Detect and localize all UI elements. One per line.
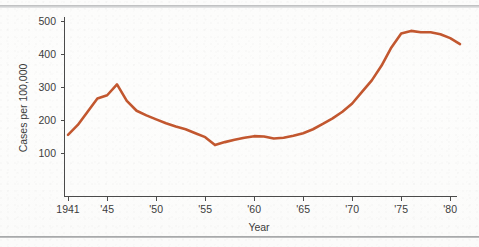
x-axis-ticks [68,197,450,202]
x-tick-label-1955: '55 [198,203,212,215]
x-tick-label-1950: '50 [149,203,163,215]
x-tick-label-1941: 1941 [56,203,80,215]
y-tick-label-500: 500 [38,15,56,27]
x-tick-label-1965: '65 [296,203,310,215]
y-tick-label-200: 200 [38,114,56,126]
line-chart: 100200300400500 1941'45'50'55'60'65'70'7… [0,0,479,247]
x-tick-label-1980: '80 [443,203,457,215]
x-tick-label-1945: '45 [100,203,114,215]
y-axis-ticks [61,21,65,153]
x-tick-label-1970: '70 [345,203,359,215]
y-tick-label-300: 300 [38,81,56,93]
chart-svg: 100200300400500 1941'45'50'55'60'65'70'7… [0,0,479,247]
y-axis-tick-labels: 100200300400500 [38,15,56,159]
x-tick-label-1975: '75 [394,203,408,215]
y-tick-label-400: 400 [38,48,56,60]
x-axis-title: Year [248,221,270,233]
data-series-line [68,31,460,145]
x-axis-tick-labels: 1941'45'50'55'60'65'70'75'80 [56,203,457,215]
y-tick-label-100: 100 [38,147,56,159]
y-axis-title: Cases per 100,000 [17,63,29,152]
x-tick-label-1960: '60 [247,203,261,215]
